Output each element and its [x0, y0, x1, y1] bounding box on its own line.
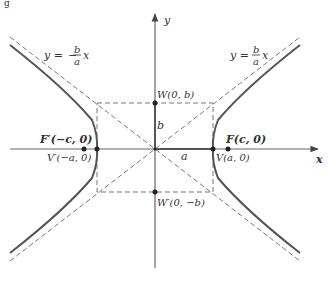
co-vertex-top-point [153, 101, 158, 106]
asymptote-left-equation: y = − b a x [43, 44, 90, 67]
vertex-right-point [211, 147, 216, 152]
svg-text:b: b [74, 44, 80, 55]
co-vertex-top-label: W(0, b) [157, 89, 194, 100]
focus-right-label: F(c, 0) [225, 133, 266, 146]
asymptote-right-equation: y = b a x [229, 44, 269, 67]
svg-text:b: b [253, 44, 259, 55]
semi-minor-label: b [157, 119, 164, 132]
svg-text:y =: y = [229, 49, 249, 62]
co-vertex-bottom-point [153, 190, 158, 195]
semi-major-label: a [181, 150, 188, 163]
vertex-right-label: V(a, 0) [216, 152, 250, 163]
svg-text:a: a [253, 56, 259, 67]
vertex-left-point [95, 147, 100, 152]
svg-text:a: a [74, 56, 80, 67]
svg-text:x: x [83, 49, 90, 62]
svg-text:y =: y = [43, 49, 63, 62]
focus-left-point [82, 147, 87, 152]
origin-point [154, 148, 157, 151]
focus-right-point [226, 147, 231, 152]
co-vertex-bottom-label: W′(0, −b) [157, 197, 205, 208]
focus-left-label: F′(−c, 0) [39, 133, 92, 146]
y-axis-label: y [163, 14, 171, 27]
hyperbola-diagram: g y x y = − b a x y = b a x F′(−c, 0) V′… [0, 0, 329, 293]
vertex-left-label: V′(−a, 0) [47, 152, 91, 163]
svg-text:x: x [262, 49, 269, 62]
x-axis-label: x [315, 153, 323, 166]
caption-fragment: g [4, 0, 10, 8]
